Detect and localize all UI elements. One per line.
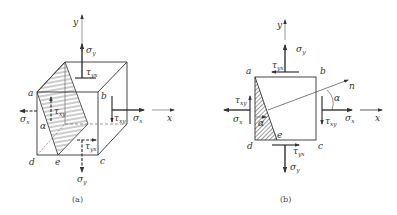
angle-arc-right [327,90,333,110]
sigma-y-bottom-label: σy [77,174,87,186]
sigma-y-top-label: σy [296,44,306,56]
tau-yx-bottom-label: τyx [293,146,305,158]
figure-b: y x n α α σy τyx σx τxy σx τxy τyx [224,20,382,204]
sigma-x-right-label: σx [345,113,355,124]
vertex-b-label: b [320,66,326,76]
figure-a: y x σy τyx σx τxy α σx τxy τyx σy a b c [20,15,174,204]
angle-alpha-left-label: α [258,118,264,128]
y-axis-label: y [276,20,283,30]
y-axis-label: y [72,17,79,27]
vertex-e-label: e [55,157,60,167]
tau-xy-right-label: τxy [114,113,126,125]
vertex-d-label: d [247,141,253,151]
vertex-b-label: b [101,91,107,101]
normal-n-label: n [349,81,355,91]
inclined-section-plane [37,62,88,155]
vertex-a-label: a [246,66,251,76]
x-axis-label: x [375,113,380,123]
figure-a-caption: (a) [72,195,83,204]
figure-b-caption: (b) [280,195,291,204]
vertex-c-label: c [100,156,105,166]
vertex-a-label: a [28,88,33,98]
sigma-x-left-label: σx [233,114,243,125]
tau-yx-top-label: τyx [86,67,98,79]
angle-alpha-right-label: α [334,93,340,103]
x-axis-label: x [167,113,172,123]
vertex-d-label: d [29,157,35,167]
sigma-x-left-label: σx [20,114,30,125]
tau-xy-right-label: τxy [325,116,337,128]
sigma-y-bottom-label: σy [290,162,300,174]
angle-alpha-label: α [40,121,46,131]
sigma-y-top-label: σy [86,45,96,57]
tau-xy-left-label: τxy [235,95,247,107]
tau-yx-top-label: τyx [272,60,284,72]
vertex-e-label: e [277,130,282,140]
tau-yx-bottom-label: τyx [85,141,97,153]
sigma-x-right-label: σx [133,113,143,124]
stress-element-diagram: y x σy τyx σx τxy α σx τxy τyx σy a b c [0,0,397,215]
vertex-c-label: c [318,141,323,151]
